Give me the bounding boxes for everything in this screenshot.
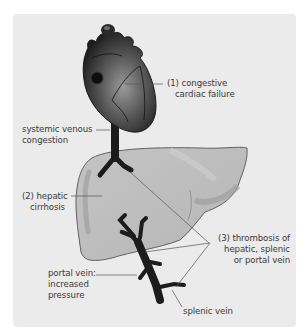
label-systemic-congestion-line2: congestion bbox=[22, 135, 92, 146]
diagram-artwork bbox=[0, 0, 303, 334]
label-portal-vein: portal vein: increased pressure bbox=[48, 268, 96, 301]
label-thrombosis-line3: or portal vein bbox=[214, 255, 290, 266]
label-portal-vein-line3: pressure bbox=[48, 290, 96, 301]
label-portal-vein-line2: increased bbox=[48, 279, 96, 290]
label-cirrhosis-line2: cirrhosis bbox=[22, 202, 65, 213]
label-cardiac-failure: (1) congestive cardiac failure bbox=[167, 78, 235, 100]
label-systemic-congestion: systemic venous congestion bbox=[22, 124, 92, 146]
label-thrombosis-line2: hepatic, splenic bbox=[214, 244, 290, 255]
label-thrombosis-line1: (3) thrombosis of bbox=[214, 233, 290, 244]
heart-illustration bbox=[83, 24, 156, 132]
label-systemic-congestion-line1: systemic venous bbox=[22, 124, 92, 135]
label-cardiac-failure-line1: (1) congestive bbox=[167, 78, 235, 89]
label-thrombosis: (3) thrombosis of hepatic, splenic or po… bbox=[214, 233, 290, 266]
label-cardiac-failure-line2: cardiac failure bbox=[167, 89, 235, 100]
label-portal-vein-line1: portal vein: bbox=[48, 268, 96, 279]
label-splenic-vein: splenic vein bbox=[183, 306, 233, 317]
label-cirrhosis-line1: (2) hepatic bbox=[22, 191, 65, 202]
label-splenic-vein-line1: splenic vein bbox=[183, 306, 233, 317]
label-cirrhosis: (2) hepatic cirrhosis bbox=[22, 191, 65, 213]
